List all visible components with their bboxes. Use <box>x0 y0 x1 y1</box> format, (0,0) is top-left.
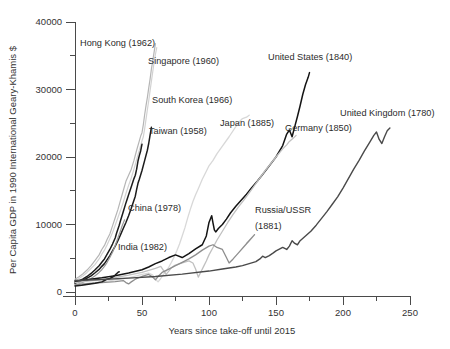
x-axis-title: Years since take-off until 2015 <box>169 325 296 336</box>
y-tick-label: 20000 <box>36 151 62 162</box>
y-tick-label: 0 <box>57 286 62 297</box>
y-axis-ticks: 010000200003000040000 <box>36 16 75 297</box>
series-label: Japan (1885) <box>220 118 274 128</box>
series-label: United States (1840) <box>268 52 352 62</box>
series-label: Germany (1850) <box>285 123 352 133</box>
x-axis-ticks: 050100150200250 <box>72 296 418 318</box>
series-label: Russia/USSR <box>255 205 312 215</box>
x-tick-label: 50 <box>137 307 148 318</box>
series-label: (1881) <box>255 221 282 231</box>
x-tick-label: 150 <box>268 307 284 318</box>
x-tick-label: 200 <box>335 307 351 318</box>
series-label: United Kingdom (1780) <box>340 108 434 118</box>
series-label: India (1982) <box>118 242 167 252</box>
series-label: Taiwan (1958) <box>149 126 207 136</box>
series-line <box>75 115 249 284</box>
y-tick-label: 10000 <box>36 219 62 230</box>
series-labels-group: Hong Kong (1962)Singapore (1960)South Ko… <box>80 38 434 252</box>
series-label: South Korea (1966) <box>152 95 232 105</box>
gdp-line-chart: 010000200003000040000 050100150200250 Ho… <box>0 0 450 349</box>
x-tick-label: 0 <box>72 307 77 318</box>
y-tick-label: 40000 <box>36 16 62 27</box>
chart-container: 010000200003000040000 050100150200250 Ho… <box>0 0 450 349</box>
x-tick-label: 100 <box>201 307 217 318</box>
series-label: Hong Kong (1962) <box>80 38 155 48</box>
axes-group: 010000200003000040000 050100150200250 <box>36 16 418 318</box>
series-label: Singapore (1960) <box>148 56 219 66</box>
y-tick-label: 30000 <box>36 84 62 95</box>
y-axis-title: Per Capita GDP in 1990 International Gea… <box>7 45 18 274</box>
x-tick-label: 250 <box>402 307 418 318</box>
series-label: China (1978) <box>128 203 181 213</box>
